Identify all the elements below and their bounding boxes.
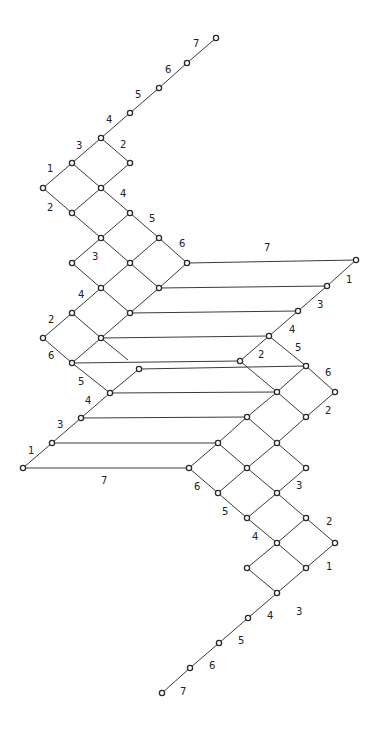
vertex-node — [156, 235, 161, 240]
vertex-node — [78, 415, 83, 420]
vertex-node — [215, 440, 220, 445]
vertex-node — [40, 335, 45, 340]
edge-label: 7 — [101, 475, 107, 486]
edge-label: 6 — [165, 64, 171, 75]
edge-label: 4 — [120, 188, 126, 199]
edge-label: 5 — [78, 376, 84, 387]
edge-line — [277, 543, 306, 568]
vertex-node — [245, 615, 250, 620]
vertex-node — [127, 260, 132, 265]
vertex-node — [98, 135, 103, 140]
edge-label: 3 — [57, 419, 63, 430]
edge-label: 5 — [222, 506, 228, 517]
vertex-node — [69, 160, 74, 165]
edge-label: 2 — [258, 349, 264, 360]
edge-line — [101, 263, 130, 288]
edge-line — [101, 338, 128, 360]
edge-label: 2 — [48, 314, 54, 325]
vertex-node — [244, 414, 249, 419]
vertex-node — [274, 440, 279, 445]
vertex-node — [303, 515, 308, 520]
edge-line — [187, 260, 356, 263]
edge-line — [101, 213, 130, 238]
vertex-node — [156, 85, 161, 90]
edge-line — [247, 468, 277, 493]
vertex-node — [244, 465, 249, 470]
edge-label: 6 — [209, 660, 215, 671]
vertex-node — [69, 360, 74, 365]
edge-label: 1 — [28, 445, 34, 456]
edge-line — [130, 238, 159, 263]
vertex-node — [324, 283, 329, 288]
edge-line — [72, 288, 101, 313]
vertex-node — [295, 308, 300, 313]
edge-line — [139, 366, 306, 369]
edge-line — [218, 417, 247, 443]
edge-line — [247, 493, 277, 518]
edge-line — [277, 392, 306, 417]
edge-line — [72, 163, 101, 188]
edge-line — [72, 313, 101, 338]
edge-line — [72, 263, 101, 288]
node-group — [20, 35, 358, 695]
edge-label: 2 — [326, 516, 332, 527]
vertex-node — [49, 440, 54, 445]
edge-line — [101, 238, 130, 263]
vertex-node — [303, 565, 308, 570]
edge-line — [130, 263, 159, 288]
edge-line — [72, 188, 101, 213]
vertex-node — [274, 490, 279, 495]
edge-label: 6 — [48, 350, 54, 361]
edge-line — [72, 213, 101, 238]
edge-line — [218, 468, 247, 493]
edge-label: 5 — [135, 89, 141, 100]
edge-line — [159, 286, 327, 288]
vertex-node — [186, 465, 191, 470]
edge-label: 7 — [264, 242, 270, 253]
edge-label: 1 — [346, 274, 352, 285]
edge-line — [110, 392, 277, 393]
edge-line — [159, 263, 187, 288]
edge-line — [81, 417, 247, 418]
edge-line — [101, 288, 130, 313]
edge-line — [130, 288, 159, 313]
edge-line — [189, 443, 218, 468]
edge-line — [277, 518, 306, 543]
edge-label: 4 — [85, 395, 91, 406]
edge-line — [101, 336, 269, 338]
edge-label: 6 — [325, 367, 331, 378]
edge-line — [101, 313, 130, 338]
vertex-node — [332, 540, 337, 545]
vertex-node — [136, 366, 141, 371]
edge-line — [277, 417, 306, 443]
vertex-node — [187, 665, 192, 670]
edge-line — [247, 417, 277, 443]
edge-label: 6 — [194, 481, 200, 492]
vertex-node — [244, 565, 249, 570]
edge-label: 3 — [92, 251, 98, 262]
vertex-node — [159, 690, 164, 695]
edge-label: 4 — [267, 610, 273, 621]
edge-line — [240, 336, 269, 361]
vertex-node — [40, 185, 45, 190]
edge-line — [277, 568, 306, 593]
vertex-node — [274, 540, 279, 545]
edge-label: 2 — [325, 405, 331, 416]
vertex-node — [69, 210, 74, 215]
vertex-node — [274, 389, 279, 394]
vertex-node — [332, 389, 337, 394]
edge-line — [110, 369, 139, 393]
edge-label: 5 — [149, 213, 155, 224]
edge-line — [159, 63, 187, 88]
edge-label: 5 — [238, 635, 244, 646]
vertex-node — [184, 60, 189, 65]
vertex-node — [98, 335, 103, 340]
vertex-node — [20, 465, 25, 470]
vertex-node — [98, 235, 103, 240]
vertex-node — [98, 285, 103, 290]
edge-label: 4 — [289, 324, 295, 335]
edge-line — [247, 392, 277, 417]
edge-label: 6 — [179, 238, 185, 249]
edge-line — [277, 443, 306, 468]
vertex-node — [244, 515, 249, 520]
